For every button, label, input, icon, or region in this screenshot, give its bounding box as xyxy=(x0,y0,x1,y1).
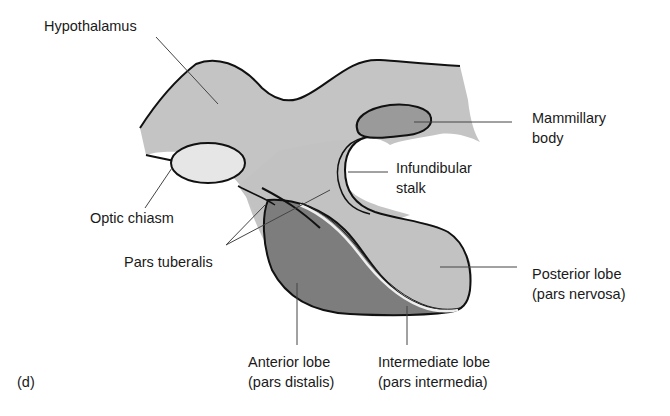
label-mammillary-line2: body xyxy=(532,128,606,148)
label-posterior-lobe: Posterior lobe (pars nervosa) xyxy=(532,264,625,304)
label-mammillary-line1: Mammillary xyxy=(532,108,606,128)
label-anterior-lobe: Anterior lobe (pars distalis) xyxy=(248,352,334,392)
label-intermediate-line1: Intermediate lobe xyxy=(378,352,490,372)
label-infundibular-line1: Infundibular xyxy=(396,158,472,178)
label-anterior-line2: (pars distalis) xyxy=(248,372,334,392)
label-infundibular-line2: stalk xyxy=(396,178,472,198)
label-optic-chiasm: Optic chiasm xyxy=(90,208,174,228)
label-pars-tuberalis: Pars tuberalis xyxy=(124,252,213,272)
label-hypothalamus: Hypothalamus xyxy=(44,16,137,36)
label-anterior-line1: Anterior lobe xyxy=(248,352,334,372)
optic-chiasm-shape xyxy=(171,143,245,183)
label-posterior-line1: Posterior lobe xyxy=(532,264,625,284)
label-infundibular-stalk: Infundibular stalk xyxy=(396,158,472,198)
label-posterior-line2: (pars nervosa) xyxy=(532,284,625,304)
panel-label: (d) xyxy=(17,372,35,392)
label-mammillary-body: Mammillary body xyxy=(532,108,606,148)
label-intermediate-lobe: Intermediate lobe (pars intermedia) xyxy=(378,352,490,392)
label-intermediate-line2: (pars intermedia) xyxy=(378,372,490,392)
